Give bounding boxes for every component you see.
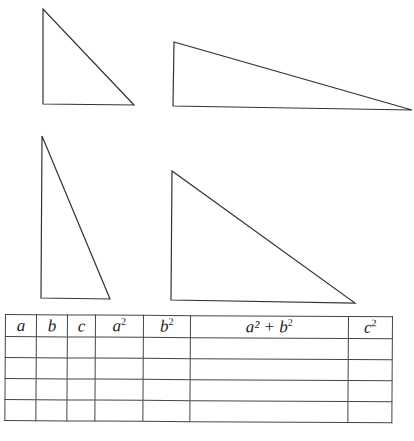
cell[interactable] [5,379,36,400]
cell[interactable] [95,379,143,400]
cell[interactable] [143,400,191,421]
header-b: b [36,315,67,337]
header-c: c [68,315,96,337]
cell[interactable] [5,400,36,421]
cell[interactable] [95,337,143,358]
cell[interactable] [5,358,36,379]
table-row [5,358,392,381]
cell[interactable] [67,379,95,400]
header-a2-plus-b2: a² + b2 [191,316,349,339]
triangle-2 [173,42,412,110]
cell[interactable] [143,337,191,358]
cell[interactable] [95,358,143,379]
triangle-4 [171,171,355,303]
cell[interactable] [348,381,393,402]
cell[interactable] [95,400,143,421]
cell[interactable] [67,400,95,421]
cell[interactable] [190,380,348,402]
cell[interactable] [36,400,67,421]
cell[interactable] [190,401,348,423]
cell[interactable] [348,360,393,381]
header-b-squared: b2 [143,315,191,337]
table-row [5,379,392,402]
header-c-squared: c2 [348,317,393,339]
table-row [5,400,392,423]
cell[interactable] [143,379,191,400]
header-row: a b c a2 b2 a² + b2 c2 [5,315,392,339]
cell[interactable] [347,402,392,423]
cell[interactable] [5,337,36,358]
cell[interactable] [36,337,67,358]
cell[interactable] [67,358,95,379]
cell[interactable] [143,358,191,379]
cell[interactable] [190,359,348,381]
cell[interactable] [190,338,348,360]
cell[interactable] [348,339,393,360]
header-a: a [5,315,36,337]
triangle-1 [43,9,134,105]
header-a-squared: a2 [96,315,144,337]
cell[interactable] [36,358,67,379]
cell[interactable] [67,337,95,358]
pythagoras-table: a b c a2 b2 a² + b2 c2 [4,314,393,423]
table-row [5,337,392,360]
cell[interactable] [36,379,67,400]
triangle-3 [41,136,110,299]
